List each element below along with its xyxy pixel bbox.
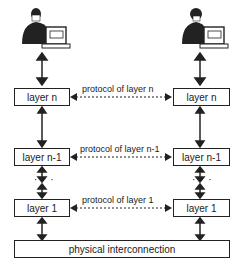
left-layer-n: layer n xyxy=(14,88,70,106)
right-ellipsis: · · · xyxy=(192,174,213,185)
right-layer-1: layer 1 xyxy=(173,199,230,217)
right-layer-n-1-label: layer n-1 xyxy=(182,152,221,163)
left-ellipsis: · · · xyxy=(34,174,55,185)
right-layer-n-1: layer n-1 xyxy=(173,148,230,166)
left-layer-n-1: layer n-1 xyxy=(14,148,70,166)
left-layer-n-label: layer n xyxy=(27,92,57,103)
left-layer-1: layer 1 xyxy=(14,199,70,217)
physical-interconnection-label: physical interconnection xyxy=(69,244,176,255)
woman-computer-icon xyxy=(182,8,228,48)
right-layer-n-label: layer n xyxy=(186,92,216,103)
protocol-layer-n-label: protocol of layer n xyxy=(82,84,154,94)
right-layer-1-label: layer 1 xyxy=(186,203,216,214)
physical-interconnection-box: physical interconnection xyxy=(14,240,230,258)
left-layer-n-1-label: layer n-1 xyxy=(23,152,62,163)
protocol-layer-1-label: protocol of layer 1 xyxy=(82,195,154,205)
right-layer-n: layer n xyxy=(173,88,230,106)
protocol-layer-n-1-label: protocol of layer n-1 xyxy=(80,144,160,154)
left-layer-1-label: layer 1 xyxy=(27,203,57,214)
diagram-canvas xyxy=(0,0,240,270)
man-computer-icon xyxy=(22,8,70,48)
